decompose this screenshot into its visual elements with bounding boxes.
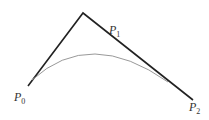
label-p0: P0 (14, 91, 25, 106)
label-p2: P2 (189, 101, 200, 116)
bezier-diagram (0, 0, 209, 120)
label-p1: P1 (109, 24, 120, 39)
bezier-curve (32, 54, 168, 82)
